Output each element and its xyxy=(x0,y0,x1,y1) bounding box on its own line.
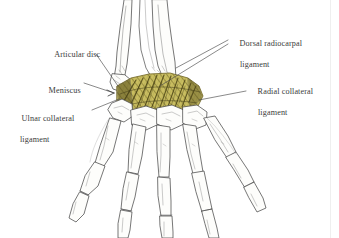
anatomical-figure: Articular disc Meniscus Ulnar collateral… xyxy=(0,0,339,238)
label-radial-collateral-line1: Radial collateral xyxy=(258,87,314,96)
label-radial-collateral-ligament: Radial collateral ligament xyxy=(249,77,313,139)
label-radial-collateral-line2: ligament xyxy=(249,108,313,118)
right-edge-rule xyxy=(330,0,331,238)
label-meniscus-line1: Meniscus xyxy=(49,86,81,95)
label-meniscus: Meniscus xyxy=(40,76,81,107)
label-articular-disc: Articular disc xyxy=(46,40,100,71)
label-ulnar-collateral-line1: Ulnar collateral xyxy=(22,114,75,123)
label-ulnar-collateral-ligament: Ulnar collateral ligament xyxy=(13,104,74,166)
label-dorsal-radiocarpal-line1: Dorsal radiocarpal xyxy=(240,39,303,48)
label-articular-disc-line1: Articular disc xyxy=(54,50,100,59)
label-ulnar-collateral-line2: ligament xyxy=(13,135,74,145)
leader-dorsal-radiocarpal-a xyxy=(176,40,228,68)
label-dorsal-radiocarpal-line2: ligament xyxy=(231,60,302,70)
leader-radial-collateral xyxy=(199,91,246,100)
